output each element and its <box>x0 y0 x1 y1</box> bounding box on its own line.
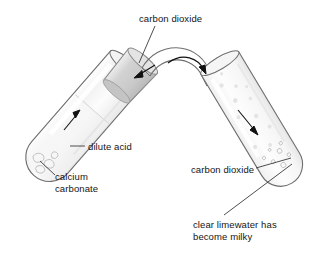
apparatus-illustration <box>0 0 335 260</box>
arrow-delivery-out <box>168 57 206 74</box>
label-carbon-dioxide-top: carbon dioxide <box>139 13 202 25</box>
label-calcium-carbonate: calcium carbonate <box>55 171 98 194</box>
diagram-canvas: carbon dioxide dilute acid calcium carbo… <box>0 0 335 260</box>
label-carbon-dioxide-right: carbon dioxide <box>191 164 254 176</box>
label-dilute-acid: dilute acid <box>88 141 132 153</box>
label-limewater-milky: clear limewater has become milky <box>193 219 277 242</box>
